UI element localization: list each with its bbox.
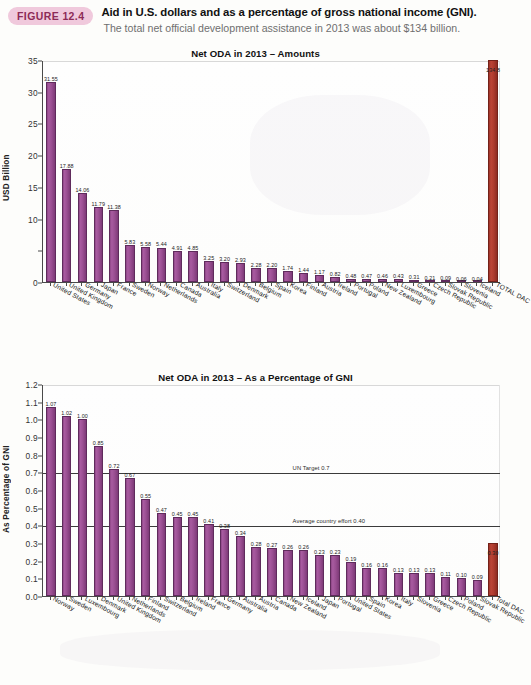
bar-value-label: 4.85 (188, 245, 199, 251)
bar-value-label: 0.23 (314, 549, 325, 555)
x-axis-tick-mark (239, 283, 240, 286)
bar-value-label: 0.16 (377, 562, 388, 568)
x-axis-tick-mark (160, 283, 161, 286)
x-axis-tick-mark (192, 283, 193, 286)
x-axis-tick-mark (129, 283, 130, 286)
bar-value-label: 0.34 (235, 530, 246, 536)
bar-value-label: 0.27 (267, 542, 278, 548)
x-axis-tick-mark (303, 597, 304, 600)
bar-value-label: 0.30 (488, 550, 499, 556)
bar (378, 568, 387, 596)
chart-net-oda-amounts: Net ODA in 2013 – Amounts USD Billion 01… (0, 48, 511, 360)
bar (173, 517, 182, 597)
bar (157, 513, 166, 596)
bar-value-label: 0.67 (124, 472, 135, 478)
bar (125, 245, 134, 282)
bar-value-label: 0.41 (203, 518, 214, 524)
y-axis-tick-label: 10 (18, 215, 38, 225)
bar-value-label: 0.85 (93, 440, 104, 446)
x-axis-tick-mark (255, 283, 256, 286)
bar-value-label: 11.79 (91, 201, 105, 207)
bar-value-label: 0.82 (330, 271, 341, 277)
x-axis-tick-mark (350, 597, 351, 600)
bar (409, 573, 418, 596)
plot-frame: UN Target 0.7Average country effort 0.40… (42, 385, 500, 597)
y-axis-tick-label: 0.5 (18, 504, 38, 514)
x-axis-tick-mark (445, 597, 446, 600)
x-axis-tick-mark (382, 597, 383, 600)
y-axis-tick-label: 30 (18, 88, 38, 98)
y-axis-tick-label: 0.6 (18, 486, 38, 496)
x-axis-tick-mark (192, 597, 193, 600)
bar (315, 555, 324, 596)
bar (109, 469, 118, 596)
bar (362, 568, 371, 596)
x-axis-tick-mark (287, 283, 288, 286)
y-axis-tick-label: 1.2 (18, 380, 38, 390)
bar-value-label: 0.23 (330, 549, 341, 555)
x-axis-tick-mark (97, 283, 98, 286)
bar-value-label: 0.38 (219, 523, 230, 529)
bar-value-label: 5.44 (156, 241, 167, 247)
bar-value-label: 0.46 (377, 273, 388, 279)
bar-value-label: 0.19 (346, 556, 357, 562)
bar-value-label: 0.48 (346, 273, 357, 279)
chart-net-oda-percentage-gni: Net ODA in 2013 – As a Percentage of GNI… (0, 372, 511, 685)
y-axis-tick-label: 0.7 (18, 468, 38, 478)
y-axis-tick-label: 15 (18, 183, 38, 193)
bar-value-label: 5.58 (140, 241, 151, 247)
y-axis-tick-label: 0.1 (18, 574, 38, 584)
x-axis-tick-mark (397, 283, 398, 286)
bar-value-label: 0.45 (172, 511, 183, 517)
bar (220, 262, 229, 282)
figure-header: FIGURE 12.4 Aid in U.S. dollars and as a… (0, 0, 511, 37)
bar-value-label: 5.83 (124, 239, 135, 245)
bar (62, 416, 71, 596)
y-axis-tick-label: 0.4 (18, 521, 38, 531)
bar (267, 268, 276, 282)
bar (330, 555, 339, 596)
bar (78, 419, 87, 596)
bar-value-label: 0.10 (456, 572, 467, 578)
bar-value-label: 1.17 (314, 269, 325, 275)
x-axis-tick-mark (145, 597, 146, 600)
bar (441, 577, 450, 596)
x-axis-tick-mark (318, 283, 319, 286)
reference-line-label: UN Target 0.7 (293, 465, 330, 471)
x-axis-tick-mark (81, 283, 82, 286)
bar-value-label: 4.91 (172, 245, 183, 251)
bar-value-label: 17.88 (60, 163, 74, 169)
bar-value-label: 1.44 (298, 267, 309, 273)
bar (141, 499, 150, 596)
bar (204, 261, 213, 282)
x-axis-tick-mark (334, 597, 335, 600)
x-axis-tick-mark (413, 597, 414, 600)
plot-right-border (499, 61, 500, 282)
bar-value-label: 11.38 (107, 204, 121, 210)
bar (141, 247, 150, 282)
y-axis-tick-label: 1.1 (18, 398, 38, 408)
x-axis-tick-mark (113, 597, 114, 600)
bar (78, 193, 87, 282)
y-axis-tick-label: 20 (18, 151, 38, 161)
bar (457, 578, 466, 596)
bar-value-label: 0.13 (393, 567, 404, 573)
figure-caption: Aid in U.S. dollars and as a percentage … (101, 6, 503, 35)
y-axis-tick-label: 25 (18, 119, 38, 129)
bar-value-label: 2.93 (235, 257, 246, 263)
bar-value-label: 31.55 (44, 76, 58, 82)
x-axis-tick-mark (224, 283, 225, 286)
bar (220, 529, 229, 596)
x-axis-tick-mark (271, 597, 272, 600)
x-axis-tick-mark (429, 283, 430, 286)
bar-value-label: 3.20 (219, 256, 230, 262)
bar (94, 207, 103, 282)
bar-value-label: 2.20 (267, 262, 278, 268)
bar-value-label: 0.43 (393, 273, 404, 279)
bar (188, 517, 197, 597)
bar (425, 573, 434, 596)
bar (251, 547, 260, 596)
bar (62, 169, 71, 282)
bar-value-label: 0.16 (361, 562, 372, 568)
x-axis-tick-mark (50, 283, 51, 286)
